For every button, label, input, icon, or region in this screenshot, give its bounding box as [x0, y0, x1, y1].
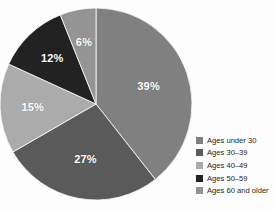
legend-item[interactable]: Ages 50–59	[196, 172, 274, 185]
legend-swatch-icon	[196, 175, 203, 182]
legend-item-label: Ages 30–39	[207, 148, 248, 157]
legend-item-label: Ages 50–59	[207, 174, 248, 183]
pie-slice-data-label: 27%	[74, 153, 97, 165]
pie-graphic: 39%27%15%12%6%	[0, 8, 192, 200]
pie-slice-data-label: 39%	[137, 80, 160, 92]
legend-item-label: Ages under 30	[207, 136, 256, 145]
pie-chart: 39%27%15%12%6% Ages under 30Ages 30–39Ag…	[0, 0, 274, 211]
legend-swatch-icon	[196, 137, 203, 144]
legend-swatch-icon	[196, 162, 203, 169]
chart-legend: Ages under 30Ages 30–39Ages 40–49Ages 50…	[196, 134, 274, 197]
legend-item[interactable]: Ages 30–39	[196, 147, 274, 160]
legend-swatch-icon	[196, 149, 203, 156]
legend-item[interactable]: Ages under 30	[196, 134, 274, 147]
legend-item-label: Ages 40–49	[207, 161, 248, 170]
legend-item[interactable]: Ages 60 and older	[196, 184, 274, 197]
pie-slice-data-label: 12%	[41, 52, 64, 64]
pie-slice-data-label: 6%	[76, 36, 92, 48]
legend-swatch-icon	[196, 187, 203, 194]
legend-item-label: Ages 60 and older	[207, 186, 269, 195]
legend-item[interactable]: Ages 40–49	[196, 159, 274, 172]
pie-slice-data-label: 15%	[21, 101, 44, 113]
